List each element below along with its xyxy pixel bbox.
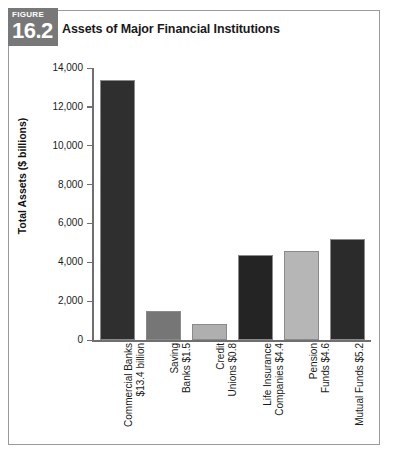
figure-number-badge: FIGURE 16.2 xyxy=(8,8,58,46)
chart-plot-area: Total Assets ($ billions) 14,00012,00010… xyxy=(8,10,380,445)
x-axis-label: Life Insurance Companies $4.4 xyxy=(262,343,285,447)
y-axis-tick-mark xyxy=(87,68,92,69)
figure-badge-number: 16.2 xyxy=(12,19,58,42)
y-axis-tick: 8,000 xyxy=(8,179,92,191)
bar-series xyxy=(94,68,371,340)
y-axis-tick-label: 0 xyxy=(77,334,83,346)
y-axis-tick: 10,000 xyxy=(8,140,92,152)
bar xyxy=(284,251,319,340)
x-axis-label: Mutual Funds $5.2 xyxy=(354,343,366,447)
y-axis-tick-mark xyxy=(87,262,92,263)
y-axis-tick-mark xyxy=(87,340,92,341)
y-axis-tick-label: 8,000 xyxy=(58,179,83,191)
y-axis-tick-mark xyxy=(87,223,92,224)
bar xyxy=(330,239,365,340)
y-axis-tick-mark xyxy=(87,106,92,107)
bar xyxy=(238,255,273,340)
y-axis-tick-label: 6,000 xyxy=(58,217,83,229)
x-axis-labels: Commercial Banks $13.4 billionSaving Ban… xyxy=(94,343,371,448)
y-axis-tick: 14,000 xyxy=(8,62,92,74)
x-axis-line xyxy=(92,340,371,342)
y-axis-tick: 12,000 xyxy=(8,101,92,113)
bar xyxy=(100,80,135,340)
y-axis-tick: 0 xyxy=(8,334,92,346)
y-axis-tick-label: 10,000 xyxy=(52,140,83,152)
bar xyxy=(192,324,227,340)
x-axis-label: Saving Banks $1.5 xyxy=(169,343,192,447)
figure-title: Assets of Major Financial Institutions xyxy=(62,22,280,36)
y-axis-tick: 2,000 xyxy=(8,295,92,307)
x-axis-label: Pension Funds $4.6 xyxy=(308,343,331,447)
y-axis-tick-label: 4,000 xyxy=(58,256,83,268)
y-axis-tick-label: 14,000 xyxy=(52,62,83,74)
y-axis-tick-mark xyxy=(87,184,92,185)
y-axis-tick-mark xyxy=(87,301,92,302)
y-axis-tick-label: 2,000 xyxy=(58,295,83,307)
figure-container: FIGURE 16.2 Assets of Major Financial In… xyxy=(0,0,405,460)
y-axis-title: Total Assets ($ billions) xyxy=(16,86,28,266)
y-axis-tick-label: 12,000 xyxy=(52,101,83,113)
y-axis-tick-mark xyxy=(87,145,92,146)
x-axis-label: Commercial Banks $13.4 billion xyxy=(123,343,146,447)
bar xyxy=(146,311,181,340)
y-axis-tick: 6,000 xyxy=(8,217,92,229)
x-axis-label: Credit Unions $0.8 xyxy=(215,343,238,447)
y-axis-tick: 4,000 xyxy=(8,256,92,268)
